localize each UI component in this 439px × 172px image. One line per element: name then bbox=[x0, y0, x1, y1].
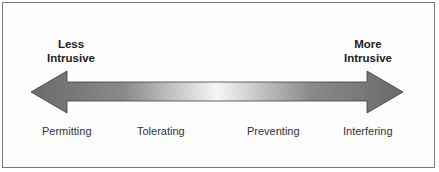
arrow-shape bbox=[31, 71, 403, 113]
intrusive-label-right: Intrusive bbox=[333, 51, 403, 65]
scale-point-preventing: Preventing bbox=[247, 125, 300, 137]
double-headed-arrow bbox=[0, 0, 439, 172]
intrusive-label-left: Intrusive bbox=[36, 51, 106, 65]
less-label: Less bbox=[36, 37, 106, 51]
more-intrusive-label: More Intrusive bbox=[333, 37, 403, 65]
more-label: More bbox=[333, 37, 403, 51]
scale-point-interfering: Interfering bbox=[343, 125, 393, 137]
less-intrusive-label: Less Intrusive bbox=[36, 37, 106, 65]
scale-point-permitting: Permitting bbox=[42, 125, 92, 137]
scale-point-tolerating: Tolerating bbox=[137, 125, 185, 137]
